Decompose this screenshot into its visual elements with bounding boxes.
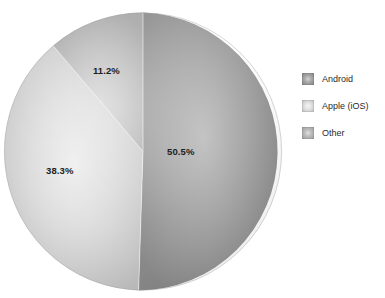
legend-label-android: Android bbox=[322, 74, 353, 85]
legend-item-android[interactable]: Android bbox=[302, 68, 385, 90]
pie-label-other: 11.2% bbox=[93, 65, 120, 76]
legend-item-other[interactable]: Other bbox=[302, 122, 385, 144]
legend-swatch-android-icon bbox=[302, 73, 314, 85]
legend-label-other: Other bbox=[322, 128, 345, 139]
pie-chart: 50.5% 38.3% 11.2% bbox=[0, 0, 292, 298]
legend-swatch-other-icon bbox=[302, 127, 314, 139]
pie-label-apple-ios: 38.3% bbox=[46, 165, 73, 176]
pie-label-android: 50.5% bbox=[167, 146, 194, 157]
pie-chart-svg bbox=[0, 0, 292, 298]
chart-legend: Android Apple (iOS) Other bbox=[302, 68, 385, 149]
legend-swatch-apple-ios-icon bbox=[302, 100, 314, 112]
legend-item-apple-ios[interactable]: Apple (iOS) bbox=[302, 95, 385, 117]
legend-label-apple-ios: Apple (iOS) bbox=[322, 101, 369, 112]
